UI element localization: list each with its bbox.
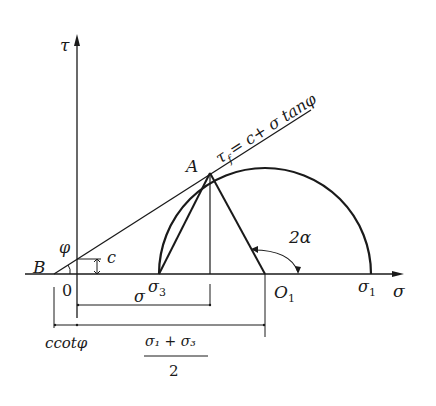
tau-axis-arrow-icon bbox=[74, 34, 80, 46]
o1-label: O 1 bbox=[274, 282, 295, 305]
mean-stress-fraction: σ₁ + σ₃ 2 bbox=[144, 333, 208, 380]
sigma-dimension-label: σ bbox=[134, 287, 146, 306]
tau-axis bbox=[74, 34, 80, 318]
line-a-to-o1 bbox=[210, 173, 265, 274]
mohr-circle-diagram: τ σ 0 B A φ c σ 3 σ O 1 σ 1 2α τ f = c+ … bbox=[0, 0, 436, 406]
c-label: c bbox=[107, 248, 116, 267]
point-b-label: B bbox=[32, 257, 46, 277]
sigma-axis bbox=[25, 271, 404, 277]
c-dimension bbox=[77, 259, 101, 274]
mohr-circle bbox=[159, 168, 371, 274]
sigma-axis-arrow-icon bbox=[392, 271, 404, 277]
svg-text:O: O bbox=[274, 282, 288, 302]
line-a-to-sigma3 bbox=[159, 173, 210, 274]
point-a-label: A bbox=[184, 156, 198, 176]
two-alpha-arrow-icon-2 bbox=[295, 266, 301, 274]
sigma1-label: σ 1 bbox=[358, 277, 376, 299]
svg-text:1: 1 bbox=[288, 292, 295, 305]
phi-angle-arc bbox=[68, 265, 70, 274]
svg-text:3: 3 bbox=[159, 286, 166, 299]
two-alpha-arc bbox=[253, 250, 298, 272]
tau-axis-label: τ bbox=[60, 35, 70, 55]
sigma3-label: σ 3 bbox=[148, 277, 166, 299]
svg-text:2: 2 bbox=[169, 362, 179, 380]
svg-text:= c+ σ tanφ: = c+ σ tanφ bbox=[225, 89, 320, 159]
sigma-axis-label: σ bbox=[393, 281, 405, 301]
svg-text:σ₁ + σ₃: σ₁ + σ₃ bbox=[145, 333, 196, 349]
origin-label: 0 bbox=[62, 281, 72, 300]
svg-text:1: 1 bbox=[369, 286, 376, 299]
envelope-equation: τ f = c+ σ tanφ bbox=[212, 89, 322, 171]
ccot-phi-label: ccotφ bbox=[45, 334, 88, 352]
phi-label: φ bbox=[59, 238, 71, 257]
two-alpha-label: 2α bbox=[288, 227, 312, 247]
